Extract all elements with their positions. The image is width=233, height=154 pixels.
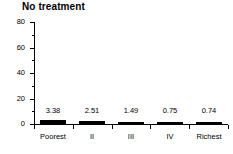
y-tick-minor — [32, 35, 34, 36]
bar-value-label: 3.38 — [33, 106, 73, 115]
y-tick-major — [30, 73, 34, 74]
x-category-label: Richest — [185, 132, 233, 141]
x-tick — [112, 125, 113, 129]
bar — [196, 122, 222, 124]
bar — [118, 122, 144, 124]
y-tick-label: 0 — [3, 120, 25, 128]
bar — [157, 122, 183, 124]
y-tick-major — [30, 99, 34, 100]
bar-value-label: 2.51 — [72, 106, 112, 115]
x-axis-line — [34, 124, 228, 125]
bar-value-label: 1.49 — [111, 106, 151, 115]
x-tick — [228, 125, 229, 129]
y-tick-minor — [32, 60, 34, 61]
bar-value-label: 0.75 — [150, 106, 190, 115]
plot-area: 020406080 3.38Poorest2.51II1.49III0.75IV… — [0, 0, 233, 154]
y-tick-label: 40 — [3, 69, 25, 77]
bar-value-label: 0.74 — [189, 106, 229, 115]
bar-chart: No treatment 020406080 3.38Poorest2.51II… — [0, 0, 233, 154]
x-tick — [189, 125, 190, 129]
x-tick — [34, 125, 35, 129]
y-tick-label: 80 — [3, 18, 25, 26]
y-tick-major — [30, 22, 34, 23]
x-tick — [150, 125, 151, 129]
y-tick-minor — [32, 86, 34, 87]
bar — [40, 120, 66, 124]
y-tick-label: 20 — [3, 95, 25, 103]
y-tick-major — [30, 48, 34, 49]
y-tick-label: 60 — [3, 44, 25, 52]
x-tick — [73, 125, 74, 129]
bar — [79, 121, 105, 124]
